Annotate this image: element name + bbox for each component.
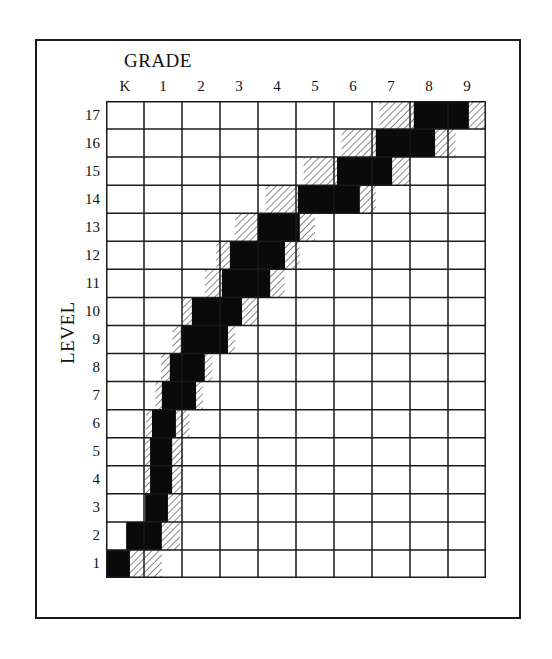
y-tick-label: 12 <box>64 241 100 269</box>
solid-cell <box>337 157 392 185</box>
solid-cell <box>192 297 242 325</box>
solid-cell <box>298 185 360 213</box>
y-tick-label: 6 <box>64 409 100 437</box>
x-axis-title: GRADE <box>124 50 192 72</box>
solid-cell <box>106 550 130 578</box>
solid-cell <box>258 213 300 241</box>
y-tick-label: 13 <box>64 213 100 241</box>
solid-cell <box>414 101 469 129</box>
x-tick-label: 3 <box>220 78 258 95</box>
solid-cell <box>152 410 176 438</box>
solid-cell <box>376 129 435 157</box>
y-tick-label: 15 <box>64 157 100 185</box>
y-tick-label: 3 <box>64 493 100 521</box>
x-tick-label: 5 <box>296 78 334 95</box>
y-tick-label: 16 <box>64 129 100 157</box>
y-tick-label: 2 <box>64 521 100 549</box>
x-tick-label: 1 <box>144 78 182 95</box>
y-tick-label: 7 <box>64 381 100 409</box>
x-tick-label: 8 <box>410 78 448 95</box>
solid-cell <box>222 269 270 297</box>
grade-level-grid <box>106 101 486 578</box>
solid-cell <box>181 325 228 353</box>
y-tick-label: 17 <box>64 101 100 129</box>
y-tick-label: 9 <box>64 325 100 353</box>
y-tick-label: 14 <box>64 185 100 213</box>
solid-cell <box>170 354 205 382</box>
y-tick-label: 4 <box>64 465 100 493</box>
solid-cell <box>162 382 196 410</box>
x-tick-label: K <box>106 78 144 95</box>
y-tick-label: 8 <box>64 353 100 381</box>
y-tick-label: 1 <box>64 549 100 577</box>
x-tick-label: 4 <box>258 78 296 95</box>
solid-cell <box>150 438 172 466</box>
x-tick-label: 7 <box>372 78 410 95</box>
x-tick-label: 9 <box>448 78 486 95</box>
x-tick-label: 2 <box>182 78 220 95</box>
y-tick-label: 5 <box>64 437 100 465</box>
x-tick-label: 6 <box>334 78 372 95</box>
y-tick-label: 10 <box>64 297 100 325</box>
solid-cell <box>145 494 168 522</box>
y-tick-label: 11 <box>64 269 100 297</box>
solid-cell <box>150 466 172 494</box>
solid-expected-band <box>106 101 469 578</box>
